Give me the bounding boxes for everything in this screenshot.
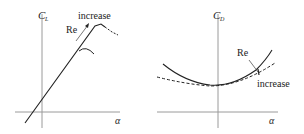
cd-re-arrow [258,69,259,75]
cd-label-sub: D [219,16,225,22]
cl-high-re-stall-dashed [105,27,118,35]
lift-chart: C L α Re increase [15,9,121,128]
cl-increase-text: increase [78,10,111,21]
cd-increase-text: increase [257,78,290,89]
cl-re-text: Re [66,24,78,35]
diagram-canvas: C L α Re increase C D α Re increase [0,0,304,134]
cl-label-sub: L [44,16,49,22]
drag-chart: C D α Re increase [157,9,290,128]
cl-arrowhead-icon [85,23,89,28]
cl-low-re-curve [79,49,94,54]
cl-alpha-label: α [115,115,121,126]
cl-high-re-curve [25,24,105,123]
cd-re-leader [249,60,258,72]
cd-alpha-label: α [269,115,275,126]
cd-re-text: Re [237,47,249,58]
